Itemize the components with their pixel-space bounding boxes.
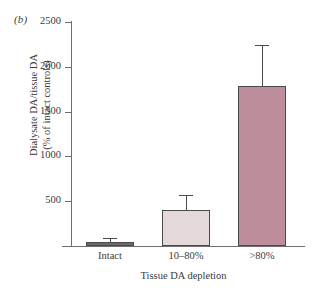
- bar[interactable]: [162, 210, 210, 246]
- error-bar-cap: [179, 195, 193, 196]
- bar-group[interactable]: [86, 22, 134, 246]
- error-bar-stem: [186, 196, 187, 210]
- y-axis-tick: [65, 67, 72, 68]
- y-axis-tick: [65, 156, 72, 157]
- bar[interactable]: [86, 242, 134, 246]
- error-bar-stem: [262, 46, 263, 85]
- bar-group[interactable]: [162, 22, 210, 246]
- figure-panel-b: (b) Dialysate DA/tissue DA (% of intact …: [0, 0, 318, 293]
- y-axis-tick: [65, 22, 72, 23]
- plot-area: [72, 22, 300, 246]
- y-axis-tick-label: 1500: [27, 105, 61, 116]
- x-axis-tick-label: >80%: [222, 250, 302, 261]
- x-axis-tick-label: 10–80%: [146, 250, 226, 261]
- y-axis-tick: [65, 112, 72, 113]
- error-bar-stem: [110, 239, 111, 241]
- y-axis-tick-label: 1000: [27, 149, 61, 160]
- error-bar-cap: [255, 45, 269, 46]
- bar-group[interactable]: [238, 22, 286, 246]
- x-axis-tick-label: Intact: [70, 250, 150, 261]
- error-bar-cap: [103, 238, 117, 239]
- panel-label: (b): [14, 13, 27, 25]
- y-axis-tick-label: 500: [27, 194, 61, 205]
- y-axis-tick: [65, 201, 72, 202]
- bar[interactable]: [238, 86, 286, 246]
- y-axis-tick-label: 2000: [27, 60, 61, 71]
- x-axis-line: [62, 246, 305, 247]
- y-axis-tick-label: 2500: [27, 15, 61, 26]
- x-axis-title: Tissue DA depletion: [62, 270, 305, 281]
